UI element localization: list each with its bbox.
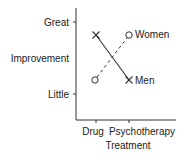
circle-marker-icon (92, 77, 98, 83)
x-marker-icon (93, 32, 100, 39)
series-women: Women (92, 29, 169, 83)
x-label-drug: Drug (82, 126, 104, 137)
y-label-little: Little (48, 89, 70, 100)
y-label-great: Great (44, 17, 69, 28)
x-marker-icon (126, 77, 133, 84)
x-label-psychotherapy: Psychotherapy (109, 126, 175, 137)
label-women: Women (135, 29, 169, 40)
interaction-chart: Great Improvement Little Drug Psychother… (0, 0, 190, 155)
x-axis-title: Treatment (105, 140, 150, 151)
label-men: Men (135, 75, 154, 86)
circle-marker-icon (126, 32, 132, 38)
y-axis-title: Improvement (11, 53, 70, 64)
